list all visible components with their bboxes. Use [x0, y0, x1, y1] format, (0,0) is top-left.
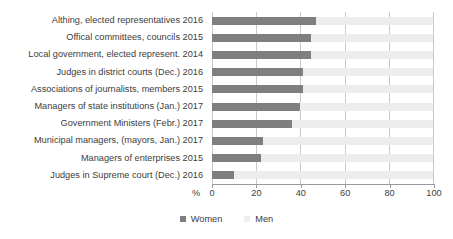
category-label: Local government, elected represent. 201…: [0, 46, 208, 63]
bar-row: [212, 115, 433, 132]
bar-row: [212, 132, 433, 149]
axis-tick-label: 20: [251, 188, 261, 198]
axis-tick-label: 80: [384, 188, 394, 198]
bar-row: [212, 150, 433, 167]
horizontal-bar-chart: Althing, elected representatives 2016 Of…: [0, 0, 453, 239]
bar-segment-women[interactable]: [212, 103, 300, 111]
bar-row: [212, 167, 433, 184]
category-label: Managers of state institutions (Jan.) 20…: [0, 98, 208, 115]
bar-row: [212, 12, 433, 29]
legend-item-men[interactable]: Men: [244, 214, 273, 224]
legend-label-men: Men: [255, 214, 273, 224]
category-label: Althing, elected representatives 2016: [0, 12, 208, 29]
category-label: Government Ministers (Febr.) 2017: [0, 115, 208, 132]
category-label: Judges in Supreme court (Dec.) 2016: [0, 167, 208, 184]
bar-row: [212, 81, 433, 98]
bar-segment-women[interactable]: [212, 17, 316, 25]
category-axis-labels: Althing, elected representatives 2016 Of…: [0, 12, 208, 184]
value-axis-title: %: [192, 188, 200, 198]
axis-tick-label: 0: [209, 188, 214, 198]
category-label: Offical committees, councils 2015: [0, 29, 208, 46]
bar-series-group: [212, 12, 433, 184]
bar-segment-women[interactable]: [212, 34, 311, 42]
bar-segment-women[interactable]: [212, 137, 263, 145]
bar-segment-women[interactable]: [212, 51, 311, 59]
bar-segment-women[interactable]: [212, 171, 234, 179]
axis-tick-label: 100: [426, 188, 441, 198]
bar-segment-men[interactable]: [212, 171, 433, 179]
category-label: Managers of enterprises 2015: [0, 150, 208, 167]
bar-segment-women[interactable]: [212, 154, 261, 162]
legend-swatch-women-icon: [180, 216, 186, 222]
legend-swatch-men-icon: [244, 216, 250, 222]
legend-item-women[interactable]: Women: [180, 214, 223, 224]
value-axis-tick-labels: 020406080100: [212, 188, 434, 202]
category-label: Municipal managers, (mayors, Jan.) 2017: [0, 132, 208, 149]
plot-area: [212, 12, 433, 184]
legend-label-women: Women: [191, 214, 223, 224]
gridline: [433, 12, 434, 184]
bar-segment-women[interactable]: [212, 85, 303, 93]
bar-row: [212, 46, 433, 63]
category-label: Judges in district courts (Dec.) 2016: [0, 64, 208, 81]
category-label: Associations of journalists, members 201…: [0, 81, 208, 98]
bar-row: [212, 29, 433, 46]
bar-row: [212, 98, 433, 115]
axis-tick-label: 60: [340, 188, 350, 198]
chart-legend: Women Men: [0, 214, 453, 224]
bar-segment-women[interactable]: [212, 68, 303, 76]
axis-tick-label: 40: [296, 188, 306, 198]
bar-row: [212, 64, 433, 81]
bar-segment-women[interactable]: [212, 120, 292, 128]
